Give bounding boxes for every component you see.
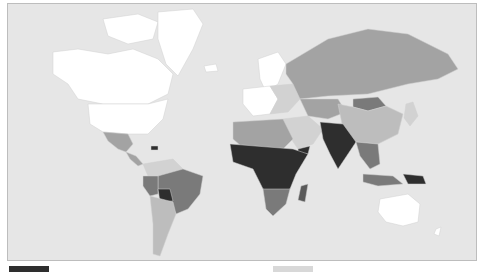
region-canada[interactable] [53, 49, 173, 104]
region-mexico[interactable] [103, 132, 133, 152]
world-map [7, 3, 477, 261]
region-haiti[interactable] [151, 146, 158, 150]
region-papua[interactable] [403, 174, 426, 184]
region-australia[interactable] [378, 194, 420, 226]
legend-swatch-dark [9, 266, 49, 272]
region-iceland[interactable] [204, 64, 218, 72]
region-russia[interactable] [286, 29, 458, 99]
region-usa[interactable] [88, 99, 168, 134]
region-madagascar[interactable] [298, 184, 308, 202]
region-arctic-canada[interactable] [103, 14, 158, 44]
legend-swatch-light [273, 266, 313, 272]
region-japan[interactable] [404, 102, 418, 126]
region-southern-cone[interactable] [150, 196, 176, 256]
region-indonesia[interactable] [363, 174, 403, 186]
region-peru[interactable] [143, 176, 158, 196]
region-new-zealand[interactable] [434, 227, 441, 236]
region-central-america[interactable] [126, 152, 143, 166]
region-sub-saharan-africa[interactable] [230, 144, 308, 196]
region-southern-africa[interactable] [263, 189, 290, 216]
choropleth-map-svg [8, 4, 477, 261]
region-southeast-asia[interactable] [356, 142, 380, 169]
